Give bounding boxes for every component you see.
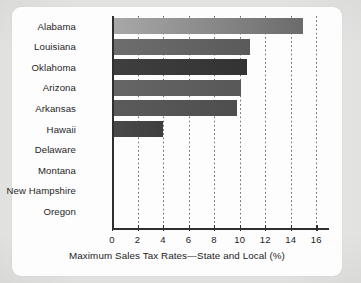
gridline-16 xyxy=(316,16,317,228)
x-tick-label-6: 6 xyxy=(186,234,191,245)
bar-row xyxy=(112,121,163,137)
x-tick-label-10: 10 xyxy=(234,234,245,245)
x-tick-0 xyxy=(112,225,113,231)
x-tick-2 xyxy=(138,225,139,231)
category-label-montana: Montana xyxy=(38,165,76,176)
category-label-delaware: Delaware xyxy=(35,144,76,155)
x-tick-14 xyxy=(291,225,292,231)
x-tick-4 xyxy=(163,225,164,231)
bar-louisiana xyxy=(112,39,250,55)
bar-arkansas xyxy=(112,100,237,116)
category-label-arizona: Arizona xyxy=(43,82,76,93)
x-tick-label-4: 4 xyxy=(160,234,165,245)
bar-row xyxy=(112,100,237,116)
x-tick-6 xyxy=(189,225,190,231)
bar-row xyxy=(112,18,303,34)
category-label-oregon: Oregon xyxy=(43,206,76,217)
plot-area: AlabamaLouisianaOklahomaArizonaArkansasH… xyxy=(12,7,342,276)
category-label-hawaii: Hawaii xyxy=(47,124,76,135)
bar-oklahoma xyxy=(112,59,247,75)
x-tick-label-8: 8 xyxy=(211,234,216,245)
category-label-alabama: Alabama xyxy=(37,21,76,32)
bar-row xyxy=(112,39,250,55)
x-tick-label-12: 12 xyxy=(260,234,271,245)
y-axis-line xyxy=(112,16,114,230)
bar-row xyxy=(112,80,241,96)
category-label-new-hampshire: New Hampshire xyxy=(6,185,76,196)
gridline-14 xyxy=(291,16,292,228)
gridline-12 xyxy=(265,16,266,228)
x-axis-line xyxy=(112,228,329,230)
x-tick-16 xyxy=(316,225,317,231)
category-label-louisiana: Louisiana xyxy=(34,41,76,52)
x-tick-label-14: 14 xyxy=(285,234,296,245)
bar-row xyxy=(112,59,247,75)
x-tick-label-0: 0 xyxy=(109,234,114,245)
x-axis-title: Maximum Sales Tax Rates—State and Local … xyxy=(12,250,342,261)
x-tick-10 xyxy=(240,225,241,231)
x-tick-label-2: 2 xyxy=(135,234,140,245)
bar-arizona xyxy=(112,80,241,96)
bar-alabama xyxy=(112,18,303,34)
category-label-oklahoma: Oklahoma xyxy=(31,62,76,73)
bar-hawaii xyxy=(112,121,163,137)
x-tick-8 xyxy=(214,225,215,231)
chart-card: AlabamaLouisianaOklahomaArizonaArkansasH… xyxy=(12,7,342,276)
category-label-arkansas: Arkansas xyxy=(35,103,76,114)
x-tick-label-16: 16 xyxy=(311,234,322,245)
figure-container: AlabamaLouisianaOklahomaArizonaArkansasH… xyxy=(0,0,361,283)
x-tick-12 xyxy=(265,225,266,231)
